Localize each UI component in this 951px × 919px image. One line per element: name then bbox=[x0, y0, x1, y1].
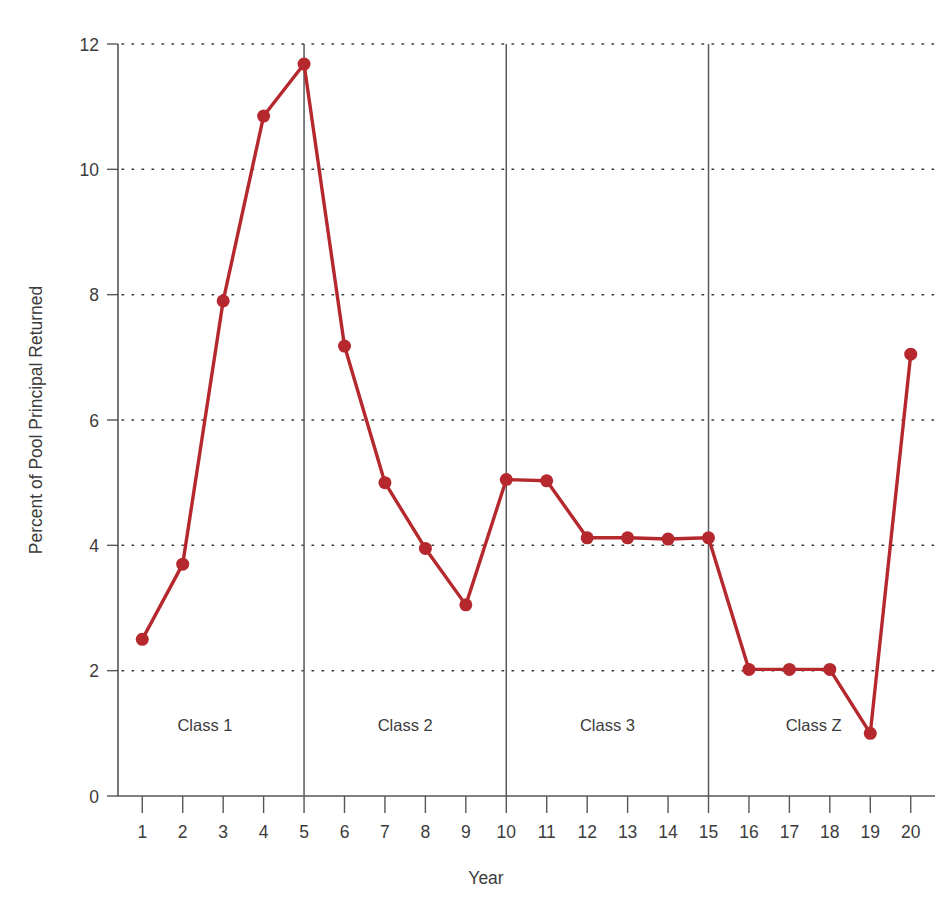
data-point-marker bbox=[823, 663, 836, 676]
y-tick-label: 4 bbox=[89, 536, 99, 556]
x-tick-label: 11 bbox=[538, 822, 556, 842]
x-tick-label: 3 bbox=[218, 822, 228, 842]
data-point-marker bbox=[742, 663, 755, 676]
x-tick-label: 15 bbox=[699, 822, 718, 842]
x-tick-label: 18 bbox=[820, 822, 839, 842]
class-label: Class 1 bbox=[177, 716, 232, 734]
x-tick-label: 9 bbox=[461, 822, 471, 842]
data-point-marker bbox=[904, 348, 917, 361]
line-chart: 024681012 123456789101112131415161718192… bbox=[0, 0, 951, 919]
data-point-marker bbox=[217, 294, 230, 307]
x-tick-label: 10 bbox=[497, 822, 517, 842]
data-series-line bbox=[142, 64, 910, 733]
x-tick-label: 20 bbox=[901, 822, 921, 842]
data-point-marker bbox=[176, 558, 189, 571]
data-point-marker bbox=[864, 727, 877, 740]
x-tick-label: 6 bbox=[340, 822, 350, 842]
y-tick-label: 6 bbox=[89, 411, 99, 431]
y-axis-ticks: 024681012 bbox=[80, 35, 118, 807]
data-point-marker bbox=[500, 473, 513, 486]
x-tick-label: 5 bbox=[299, 822, 309, 842]
y-tick-label: 0 bbox=[89, 787, 99, 807]
y-tick-label: 8 bbox=[89, 285, 99, 305]
y-tick-label: 10 bbox=[80, 160, 100, 180]
data-point-marker bbox=[581, 531, 594, 544]
data-point-marker bbox=[702, 531, 715, 544]
data-point-marker bbox=[540, 474, 553, 487]
y-tick-label: 2 bbox=[89, 661, 99, 681]
x-tick-label: 4 bbox=[259, 822, 269, 842]
x-tick-label: 7 bbox=[380, 822, 390, 842]
chart-container: 024681012 123456789101112131415161718192… bbox=[0, 0, 951, 919]
data-point-marker bbox=[298, 58, 311, 71]
class-label: Class Z bbox=[786, 716, 842, 734]
y-tick-label: 12 bbox=[80, 35, 99, 55]
gridlines bbox=[122, 44, 935, 671]
data-point-marker bbox=[136, 633, 149, 646]
x-tick-label: 2 bbox=[178, 822, 188, 842]
class-label: Class 3 bbox=[580, 716, 635, 734]
y-axis-title: Percent of Pool Principal Returned bbox=[26, 286, 46, 554]
x-tick-label: 19 bbox=[861, 822, 880, 842]
data-point-marker bbox=[378, 476, 391, 489]
x-tick-label: 13 bbox=[618, 822, 637, 842]
x-tick-label: 1 bbox=[137, 822, 147, 842]
x-tick-label: 16 bbox=[739, 822, 758, 842]
data-point-marker bbox=[783, 663, 796, 676]
x-axis-title: Year bbox=[468, 868, 504, 888]
data-point-marker bbox=[257, 110, 270, 123]
class-region-labels: Class 1Class 2Class 3Class Z bbox=[177, 716, 841, 734]
x-axis-ticks: 1234567891011121314151617181920 bbox=[137, 796, 920, 842]
x-tick-label: 14 bbox=[658, 822, 678, 842]
x-tick-label: 17 bbox=[780, 822, 799, 842]
data-point-marker bbox=[459, 598, 472, 611]
x-tick-label: 8 bbox=[421, 822, 431, 842]
data-point-marker bbox=[419, 542, 432, 555]
data-point-marker bbox=[338, 340, 351, 353]
x-tick-label: 12 bbox=[577, 822, 596, 842]
data-point-marker bbox=[662, 533, 675, 546]
class-label: Class 2 bbox=[378, 716, 433, 734]
data-point-marker bbox=[621, 531, 634, 544]
